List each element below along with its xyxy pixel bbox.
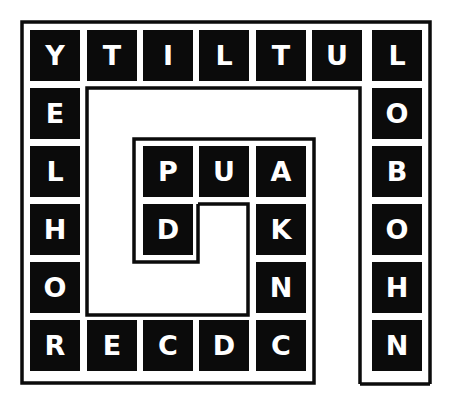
letter-cell: K	[256, 204, 306, 255]
letter-cell: D	[199, 320, 249, 371]
letter-cell: O	[372, 204, 422, 255]
letter-cell: I	[143, 30, 193, 81]
letter-cell: L	[199, 30, 249, 81]
letter-cell: C	[256, 320, 306, 371]
letter-cell: N	[256, 262, 306, 313]
letter-cell: N	[372, 320, 422, 371]
letter-cell: Y	[30, 30, 80, 81]
letter-cell: O	[372, 88, 422, 139]
letter-cell: O	[30, 262, 80, 313]
letter-cell: L	[30, 146, 80, 197]
letter-cell: H	[30, 204, 80, 255]
letter-cell: A	[256, 146, 306, 197]
letter-cell: U	[312, 30, 362, 81]
letter-cell: E	[30, 88, 80, 139]
letter-cell: D	[143, 204, 193, 255]
letter-cell: T	[256, 30, 306, 81]
letter-cell: E	[87, 320, 137, 371]
letter-cell: U	[199, 146, 249, 197]
letter-cell: L	[372, 30, 422, 81]
letter-cell: P	[143, 146, 193, 197]
letter-cell: C	[143, 320, 193, 371]
letter-cell: R	[30, 320, 80, 371]
letter-cell: H	[372, 262, 422, 313]
letter-cell: T	[87, 30, 137, 81]
letter-cell: B	[372, 146, 422, 197]
